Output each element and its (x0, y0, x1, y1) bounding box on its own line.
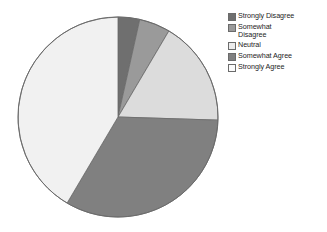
legend-label-strongly-disagree: Strongly Disagree (238, 12, 294, 20)
legend-item-somewhat-disagree[interactable]: Somewhat Disagree (228, 23, 327, 40)
legend-label-strongly-agree: Strongly Agree (238, 63, 284, 71)
pie-plot-area (0, 0, 228, 232)
legend-swatch-somewhat-agree (228, 53, 236, 61)
legend-label-neutral: Neutral (238, 41, 261, 49)
pie-chart-figure: Strongly Disagree Somewhat Disagree Neut… (0, 0, 327, 232)
legend-swatch-strongly-disagree (228, 13, 236, 21)
legend-swatch-neutral (228, 42, 236, 50)
legend-swatch-strongly-agree (228, 64, 236, 72)
legend-item-neutral[interactable]: Neutral (228, 41, 327, 51)
legend: Strongly Disagree Somewhat Disagree Neut… (228, 12, 327, 76)
legend-label-somewhat-agree: Somewhat Agree (238, 52, 292, 60)
legend-item-strongly-disagree[interactable]: Strongly Disagree (228, 12, 327, 22)
legend-label-somewhat-disagree: Somewhat Disagree (238, 23, 272, 40)
legend-item-somewhat-agree[interactable]: Somewhat Agree (228, 52, 327, 62)
legend-item-strongly-agree[interactable]: Strongly Agree (228, 63, 327, 73)
pie-svg (0, 0, 228, 232)
legend-swatch-somewhat-disagree (228, 24, 236, 32)
pie-slice-group (18, 17, 218, 217)
